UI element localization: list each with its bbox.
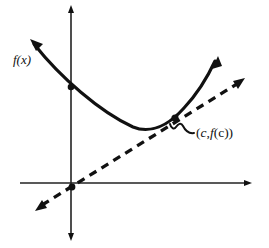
function-curve	[30, 39, 222, 130]
y-axis-top-arrowhead-icon	[68, 5, 74, 13]
y-intercept-dot	[68, 84, 75, 91]
tangent-x-intercept-dot	[69, 184, 76, 191]
squiggly-arrow-icon	[170, 124, 194, 133]
y-axis	[68, 5, 74, 241]
tangent-point-label: (c,f(c))	[196, 126, 233, 140]
y-axis-bottom-arrowhead-icon	[68, 233, 74, 241]
tangent-point-dot	[171, 114, 178, 121]
x-axis-right-arrowhead-icon	[244, 180, 252, 186]
figure-canvas: f(x) (c,f(c))	[0, 0, 269, 248]
tangent-arrow-up-right-icon	[233, 78, 245, 89]
x-axis	[20, 180, 252, 186]
tangent-line	[35, 78, 245, 211]
function-curve-path	[34, 44, 215, 130]
curve-arrow-up-left-icon	[30, 39, 43, 51]
point-label-inner: (c))	[214, 125, 233, 140]
function-label: f(x)	[13, 53, 31, 66]
graph-svg	[0, 0, 269, 248]
